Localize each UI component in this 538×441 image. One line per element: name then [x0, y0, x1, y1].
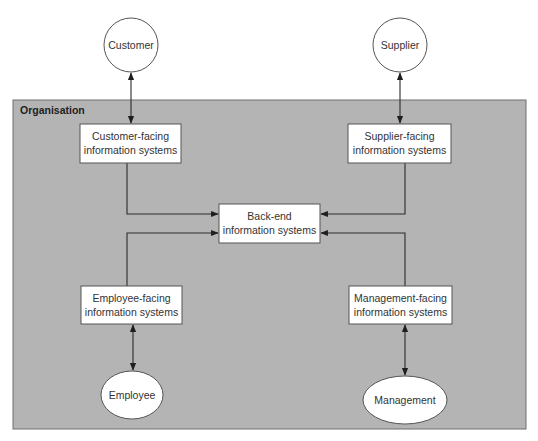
employee-node: Employee — [101, 371, 163, 419]
customer-label: Customer — [108, 39, 154, 51]
management-node: Management — [363, 376, 447, 424]
back-end-systems-box: Back-end information systems — [219, 204, 320, 243]
back-end-label-line1: Back-end — [247, 210, 292, 222]
supplier-label: Supplier — [381, 39, 420, 51]
management-label: Management — [374, 394, 435, 406]
back-end-label-line2: information systems — [223, 224, 316, 236]
supplier-facing-label-line2: information systems — [353, 144, 446, 156]
management-facing-label-line2: information systems — [354, 306, 447, 318]
employee-facing-label-line2: information systems — [85, 306, 178, 318]
employee-facing-systems-box: Employee-facing information systems — [81, 286, 182, 324]
customer-facing-systems-box: Customer-facing information systems — [80, 124, 181, 163]
customer-facing-label-line1: Customer-facing — [92, 130, 169, 142]
employee-label: Employee — [109, 389, 156, 401]
supplier-node: Supplier — [373, 18, 427, 72]
employee-facing-label-line1: Employee-facing — [92, 292, 170, 304]
customer-node: Customer — [104, 18, 158, 72]
management-facing-label-line1: Management-facing — [354, 292, 447, 304]
customer-facing-label-line2: information systems — [84, 144, 177, 156]
management-facing-systems-box: Management-facing information systems — [349, 286, 452, 324]
information-systems-diagram: Organisation Customer Supplier Employee … — [0, 0, 538, 441]
organisation-label: Organisation — [20, 104, 85, 116]
supplier-facing-label-line1: Supplier-facing — [364, 130, 434, 142]
supplier-facing-systems-box: Supplier-facing information systems — [348, 124, 451, 163]
